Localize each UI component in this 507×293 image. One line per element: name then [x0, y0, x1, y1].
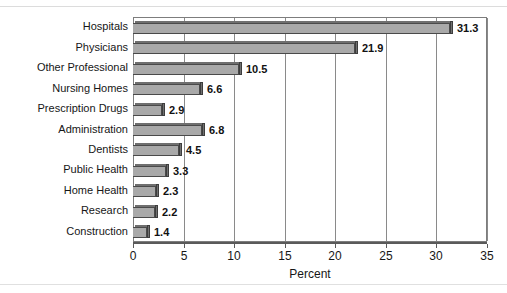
- bar-top-face: [135, 41, 357, 43]
- category-label: Administration: [0, 124, 128, 135]
- bar-body: [133, 64, 239, 75]
- bar: [133, 184, 161, 199]
- x-axis-tick-label: 0: [118, 250, 148, 263]
- bar-side-face: [162, 103, 165, 116]
- bar: [133, 164, 171, 179]
- bar-body: [133, 43, 355, 54]
- bar-side-face: [355, 41, 358, 54]
- bar-value-label: 21.9: [362, 42, 383, 54]
- x-axis-tick-label: 35: [472, 250, 502, 263]
- x-axis-tick-label: 30: [421, 250, 451, 263]
- x-axis-tick-label: 5: [169, 250, 199, 263]
- bar-value-label: 2.9: [169, 104, 184, 116]
- bar-top-face: [135, 143, 181, 145]
- bar-value-label: 31.3: [457, 22, 478, 34]
- gridline: [436, 18, 437, 241]
- bar-value-label: 6.6: [207, 83, 222, 95]
- bar-side-face: [239, 62, 242, 75]
- bar-value-label: 6.8: [209, 124, 224, 136]
- bar: [133, 143, 184, 158]
- bar-body: [133, 23, 450, 34]
- bar-body: [133, 125, 202, 136]
- bar-top-face: [135, 62, 241, 64]
- category-label: Hospitals: [0, 21, 128, 32]
- x-axis-tick: [285, 244, 286, 248]
- bar: [133, 62, 244, 77]
- bar-value-label: 1.4: [154, 226, 169, 238]
- bar-value-label: 2.3: [163, 185, 178, 197]
- bar-side-face: [200, 82, 203, 95]
- bar-body: [133, 207, 155, 218]
- category-label: Construction: [0, 226, 128, 237]
- x-axis-tick: [184, 244, 185, 248]
- category-label: Other Professional: [0, 62, 128, 73]
- bar: [133, 123, 207, 138]
- category-label: Public Health: [0, 164, 128, 175]
- x-axis-tick-label: 10: [219, 250, 249, 263]
- bar-value-label: 3.3: [173, 165, 188, 177]
- category-label: Nursing Homes: [0, 83, 128, 94]
- gridline: [386, 18, 387, 241]
- bar-value-label: 2.2: [162, 206, 177, 218]
- x-axis-tick: [436, 244, 437, 248]
- x-axis-tick: [487, 244, 488, 248]
- category-label: Physicians: [0, 42, 128, 53]
- bar-chart: HospitalsPhysiciansOther ProfessionalNur…: [0, 0, 507, 293]
- x-axis-line: [133, 242, 487, 244]
- bar-side-face: [155, 205, 158, 218]
- bar-top-face: [135, 205, 157, 207]
- category-label: Prescription Drugs: [0, 103, 128, 114]
- bar-body: [133, 84, 200, 95]
- bar-top-face: [135, 164, 168, 166]
- x-axis-tick: [234, 244, 235, 248]
- category-label: Home Health: [0, 185, 128, 196]
- bar-side-face: [450, 21, 453, 34]
- bar-body: [133, 186, 156, 197]
- bar-side-face: [202, 123, 205, 136]
- x-axis-title: Percent: [133, 268, 487, 281]
- bar: [133, 21, 455, 36]
- bar-value-label: 10.5: [246, 63, 267, 75]
- x-axis-tick-label: 25: [371, 250, 401, 263]
- x-axis-tick-label: 15: [270, 250, 300, 263]
- bar: [133, 41, 360, 56]
- bar-side-face: [166, 164, 169, 177]
- x-axis-tick-label: 20: [320, 250, 350, 263]
- x-axis-tick: [335, 244, 336, 248]
- bar-top-face: [135, 123, 204, 125]
- bar-side-face: [179, 143, 182, 156]
- bar-top-face: [135, 21, 452, 23]
- bar-top-face: [135, 184, 158, 186]
- bar-body: [133, 145, 179, 156]
- bar-side-face: [147, 225, 150, 238]
- bar-top-face: [135, 103, 164, 105]
- bar-body: [133, 105, 162, 116]
- bar: [133, 205, 160, 220]
- bar-body: [133, 227, 147, 238]
- bar-top-face: [135, 82, 202, 84]
- category-label: Research: [0, 205, 128, 216]
- bar: [133, 225, 152, 240]
- bar-value-label: 4.5: [186, 144, 201, 156]
- bar: [133, 103, 167, 118]
- x-axis-tick: [386, 244, 387, 248]
- x-axis-tick: [133, 244, 134, 248]
- gridline: [487, 18, 488, 241]
- bar-body: [133, 166, 166, 177]
- bar: [133, 82, 205, 97]
- bar-side-face: [156, 184, 159, 197]
- category-label: Dentists: [0, 144, 128, 155]
